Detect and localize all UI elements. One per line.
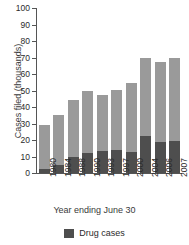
plot-area: 0102030405060708090100 [36,8,182,173]
y-tick-90 [32,25,36,26]
x-tick-label-1993: 1993 [106,158,116,177]
y-tick-30 [32,124,36,125]
y-tick-label-30: 30 [8,120,30,128]
bar-2006 [155,62,166,173]
y-tick-0 [32,173,36,174]
y-tick-20 [32,140,36,141]
y-tick-40 [32,107,36,108]
x-tick-label-2006: 2006 [164,158,174,177]
y-tick-label-20: 20 [8,136,30,144]
bar-2007 [169,58,180,173]
y-tick-label-50: 50 [8,87,30,95]
y-tick-70 [32,58,36,59]
x-tick-label-2000: 2000 [135,158,145,177]
bar-2004 [140,58,151,174]
y-tick-60 [32,74,36,75]
x-tick-label-1997: 1997 [121,158,131,177]
y-tick-label-40: 40 [8,103,30,111]
y-tick-label-100: 100 [8,4,30,12]
y-tick-label-10: 10 [8,153,30,161]
chart-legend: Drug cases [0,228,189,238]
x-tick-label-1988: 1988 [77,158,87,177]
bar-group [37,8,182,173]
y-tick-80 [32,41,36,42]
y-tick-label-0: 0 [8,169,30,177]
y-tick-50 [32,91,36,92]
y-tick-10 [32,157,36,158]
x-tick-label-1984: 1984 [63,158,73,177]
x-tick-label-2007: 2007 [179,158,189,177]
y-tick-label-60: 60 [8,70,30,78]
legend-label-drug-cases: Drug cases [79,228,125,238]
x-tick-label-1980: 1980 [48,158,58,177]
y-tick-label-90: 90 [8,21,30,29]
legend-swatch-drug-cases [64,229,74,238]
x-axis-title: Year ending June 30 [0,205,189,215]
x-tick-label-2004: 2004 [150,158,160,177]
chart-figure: Cases filed (thousands) 0102030405060708… [0,0,189,245]
x-tick-label-1990: 1990 [92,158,102,177]
y-tick-label-70: 70 [8,54,30,62]
y-tick-100 [32,8,36,9]
y-tick-label-80: 80 [8,37,30,45]
